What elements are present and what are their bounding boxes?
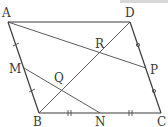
label-B: B [33,115,42,127]
label-Q: Q [54,71,64,85]
label-A: A [1,6,11,20]
label-P: P [150,63,158,77]
segment-AP [8,22,146,68]
label-R: R [95,37,105,51]
top-border-fragment [120,0,168,3]
label-C: C [157,115,166,127]
label-N: N [95,115,106,127]
parallelogram-diagram: A D R P M Q B N C [0,0,168,127]
label-D: D [125,6,135,20]
label-M: M [9,62,21,76]
diagonal-DB [39,22,130,113]
